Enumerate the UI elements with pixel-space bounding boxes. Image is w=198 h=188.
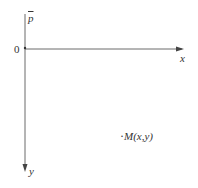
origin-dot-icon	[24, 47, 26, 49]
x-axis-arrow-icon	[176, 47, 184, 52]
axes-svg	[0, 0, 198, 188]
x-axis-label: x	[180, 53, 185, 64]
y-axis-arrow-icon	[23, 164, 28, 172]
vector-p-label: p	[28, 13, 34, 24]
coordinate-diagram: p 0 x y · M(x,y)	[0, 0, 198, 188]
y-axis-label: y	[29, 166, 34, 177]
point-m-label: M(x,y)	[124, 131, 153, 142]
origin-label: 0	[14, 44, 20, 55]
